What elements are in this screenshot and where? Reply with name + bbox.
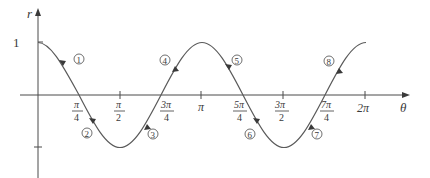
theta-axis-arrow-icon xyxy=(402,92,410,98)
tick-label-pi-2: π 2 xyxy=(114,99,125,123)
r-axis-label: r xyxy=(27,6,33,21)
svg-text:4: 4 xyxy=(164,112,169,123)
svg-text:π: π xyxy=(116,99,122,110)
r-axis-arrow-icon xyxy=(35,8,41,16)
svg-text:2: 2 xyxy=(116,112,121,123)
segment-label-4: 4 xyxy=(160,55,170,66)
theta-axis-label: θ xyxy=(400,100,407,115)
arrow-down-icon xyxy=(225,64,232,70)
svg-text:2: 2 xyxy=(85,129,90,139)
svg-text:5π: 5π xyxy=(234,99,245,110)
svg-text:5: 5 xyxy=(235,56,240,66)
segment-label-8: 8 xyxy=(324,56,334,67)
segment-label-3: 3 xyxy=(148,129,158,140)
svg-text:4: 4 xyxy=(74,112,79,123)
svg-text:1: 1 xyxy=(77,55,82,65)
tick-label-pi-4: π 4 xyxy=(72,99,83,123)
tick-label-pi: π xyxy=(198,100,205,114)
polar-function-graph: r θ 1 π 4 π 2 3π 4 π 5π 4 3π 2 7π 4 xyxy=(0,0,430,178)
svg-text:3π: 3π xyxy=(274,99,286,110)
segment-label-5: 5 xyxy=(232,55,242,66)
svg-text:4: 4 xyxy=(163,56,168,66)
segment-label-7: 7 xyxy=(312,129,322,140)
svg-text:8: 8 xyxy=(327,57,332,67)
svg-text:4: 4 xyxy=(237,112,242,123)
svg-text:4: 4 xyxy=(324,112,329,123)
svg-text:π: π xyxy=(74,99,80,110)
segment-label-1: 1 xyxy=(74,54,84,65)
tick-label-5pi-4: 5π 4 xyxy=(233,99,247,123)
arrow-up-icon xyxy=(336,68,343,74)
tick-label-3pi-2: 3π 2 xyxy=(274,99,289,123)
segment-label-2: 2 xyxy=(82,128,92,139)
svg-text:2: 2 xyxy=(279,112,284,123)
svg-text:3π: 3π xyxy=(160,99,172,110)
r-one-label: 1 xyxy=(13,35,20,50)
tick-label-2pi: 2π xyxy=(357,101,370,115)
svg-text:3: 3 xyxy=(151,130,156,140)
segment-label-6: 6 xyxy=(245,129,255,140)
svg-text:6: 6 xyxy=(248,130,253,140)
tick-label-7pi-4: 7π 4 xyxy=(320,99,334,123)
tick-label-3pi-4: 3π 4 xyxy=(160,99,174,123)
svg-text:7: 7 xyxy=(315,130,320,140)
segment-labels: 1 2 3 4 5 6 7 8 xyxy=(74,54,334,140)
arrow-up-icon xyxy=(172,66,179,72)
